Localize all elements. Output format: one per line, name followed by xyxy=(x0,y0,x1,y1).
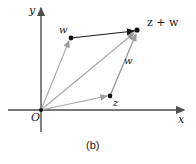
dot-z-plus-w xyxy=(134,27,139,32)
figure-caption: (b) xyxy=(86,140,99,151)
dot-w xyxy=(69,36,74,41)
vector-O-to-w xyxy=(41,41,69,110)
vector-O-to-z xyxy=(41,96,107,110)
x-axis-label: x xyxy=(178,114,184,125)
edge-label-w-right: w xyxy=(124,56,133,66)
vector-addition-parallelogram-figure: y x O w z z + w w (b) xyxy=(0,0,196,164)
point-label-z-plus-w: z + w xyxy=(147,17,178,28)
y-axis-label: y xyxy=(29,5,35,16)
dot-z xyxy=(108,94,113,99)
origin-label: O xyxy=(31,112,40,123)
point-label-z: z xyxy=(113,98,118,108)
point-label-w: w xyxy=(59,25,68,35)
vector-w-to-z-plus-w xyxy=(71,31,134,38)
